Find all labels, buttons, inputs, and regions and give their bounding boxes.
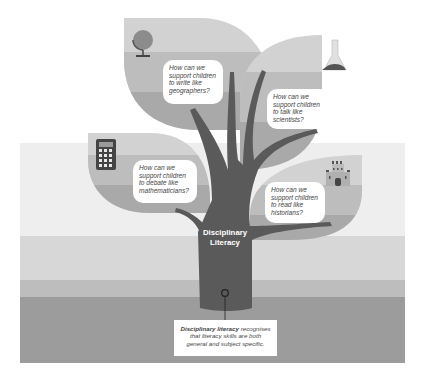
question-mathematics: How can we support children to debate li… bbox=[133, 160, 197, 203]
calculator-icon bbox=[96, 139, 116, 170]
question-science: How can we support children to talk like… bbox=[267, 89, 330, 129]
flask-icon bbox=[322, 40, 346, 70]
pin-icon bbox=[222, 290, 229, 297]
disciplinary-literacy-tree-diagram: How can we support children to write lik… bbox=[0, 0, 448, 381]
question-history: How can we support children to read like… bbox=[265, 182, 325, 223]
definition-caption: Disciplinary literacy recognises that li… bbox=[174, 320, 277, 356]
question-geography: How can we support children to write lik… bbox=[163, 60, 223, 104]
trunk-label: Disciplinary Literacy bbox=[190, 228, 260, 247]
